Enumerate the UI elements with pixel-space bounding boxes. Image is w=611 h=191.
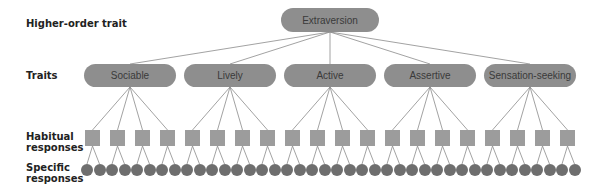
specific-response-node bbox=[469, 164, 481, 176]
specific-response-node bbox=[394, 164, 406, 176]
node-trait-sociable: Sociable bbox=[84, 64, 176, 87]
specific-response-node bbox=[369, 164, 381, 176]
node-trait-sensation-seeking: Sensation-seeking bbox=[484, 64, 576, 87]
specific-response-node bbox=[506, 164, 518, 176]
habitual-response-node bbox=[385, 130, 400, 146]
specific-response-node bbox=[156, 164, 168, 176]
specific-response-node bbox=[344, 164, 356, 176]
specific-response-node bbox=[219, 164, 231, 176]
specific-response-node bbox=[256, 164, 268, 176]
habitual-response-node bbox=[260, 130, 275, 146]
node-trait-active: Active bbox=[284, 64, 376, 87]
habitual-response-node bbox=[410, 130, 425, 146]
habitual-response-node bbox=[135, 130, 150, 146]
habitual-response-node bbox=[285, 130, 300, 146]
specific-response-node bbox=[419, 164, 431, 176]
specific-response-node bbox=[206, 164, 218, 176]
specific-response-node bbox=[306, 164, 318, 176]
habitual-response-node bbox=[460, 130, 475, 146]
specific-response-node bbox=[331, 164, 343, 176]
habitual-response-node bbox=[210, 130, 225, 146]
specific-response-node bbox=[481, 164, 493, 176]
habitual-response-node bbox=[310, 130, 325, 146]
habitual-response-node bbox=[110, 130, 125, 146]
specific-response-node bbox=[81, 164, 93, 176]
specific-response-node bbox=[269, 164, 281, 176]
specific-response-node bbox=[406, 164, 418, 176]
habitual-response-node bbox=[335, 130, 350, 146]
specific-response-node bbox=[456, 164, 468, 176]
specific-response-node bbox=[544, 164, 556, 176]
specific-response-node bbox=[556, 164, 568, 176]
habitual-response-node bbox=[510, 130, 525, 146]
specific-response-node bbox=[431, 164, 443, 176]
specific-response-node bbox=[531, 164, 543, 176]
habitual-response-node bbox=[435, 130, 450, 146]
habitual-response-node bbox=[85, 130, 100, 146]
specific-response-node bbox=[281, 164, 293, 176]
habitual-response-node bbox=[535, 130, 550, 146]
node-trait-lively: Lively bbox=[184, 64, 276, 87]
specific-response-node bbox=[181, 164, 193, 176]
specific-response-node bbox=[169, 164, 181, 176]
specific-response-node bbox=[244, 164, 256, 176]
specific-response-node bbox=[94, 164, 106, 176]
specific-response-node bbox=[106, 164, 118, 176]
specific-response-node bbox=[319, 164, 331, 176]
specific-response-node bbox=[119, 164, 131, 176]
specific-response-node bbox=[231, 164, 243, 176]
specific-response-node bbox=[294, 164, 306, 176]
node-trait-assertive: Assertive bbox=[384, 64, 476, 87]
habitual-response-node bbox=[235, 130, 250, 146]
habitual-response-node bbox=[485, 130, 500, 146]
specific-response-node bbox=[569, 164, 581, 176]
specific-response-node bbox=[356, 164, 368, 176]
specific-response-node bbox=[144, 164, 156, 176]
habitual-response-node bbox=[560, 130, 575, 146]
specific-response-node bbox=[194, 164, 206, 176]
habitual-response-node bbox=[160, 130, 175, 146]
habitual-response-node bbox=[185, 130, 200, 146]
specific-response-node bbox=[494, 164, 506, 176]
node-extraversion: Extraversion bbox=[281, 8, 379, 32]
specific-response-node bbox=[519, 164, 531, 176]
specific-response-node bbox=[381, 164, 393, 176]
specific-response-node bbox=[131, 164, 143, 176]
habitual-response-node bbox=[360, 130, 375, 146]
specific-response-node bbox=[444, 164, 456, 176]
